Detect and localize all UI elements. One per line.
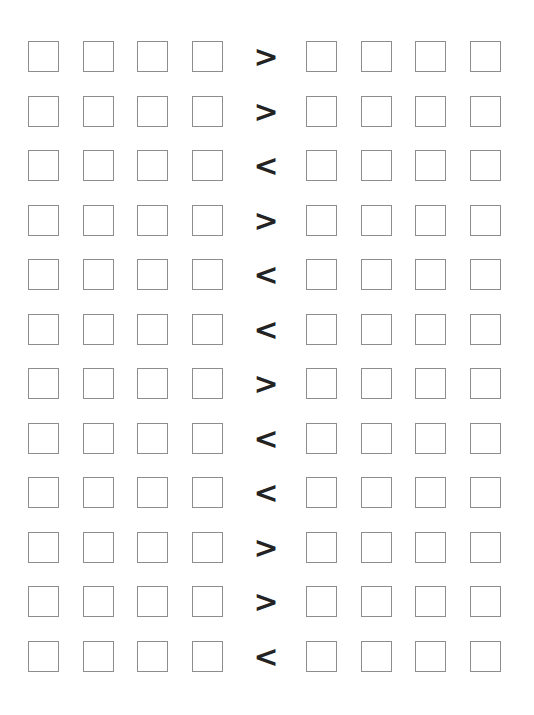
answer-box[interactable]: [415, 205, 446, 236]
answer-box[interactable]: [306, 150, 337, 181]
answer-box[interactable]: [28, 477, 59, 508]
answer-box[interactable]: [361, 477, 392, 508]
answer-box[interactable]: [137, 423, 168, 454]
answer-box[interactable]: [83, 96, 114, 127]
answer-box[interactable]: [83, 205, 114, 236]
answer-box[interactable]: [415, 368, 446, 399]
answer-box[interactable]: [192, 205, 223, 236]
answer-box[interactable]: [306, 314, 337, 345]
answer-box[interactable]: [361, 205, 392, 236]
answer-box[interactable]: [361, 259, 392, 290]
answer-box[interactable]: [137, 259, 168, 290]
answer-box[interactable]: [137, 205, 168, 236]
answer-box[interactable]: [470, 205, 501, 236]
answer-box[interactable]: [83, 314, 114, 345]
answer-box[interactable]: [415, 150, 446, 181]
answer-box[interactable]: [28, 586, 59, 617]
answer-box[interactable]: [415, 259, 446, 290]
answer-box[interactable]: [415, 586, 446, 617]
answer-box[interactable]: [306, 96, 337, 127]
answer-box[interactable]: [137, 314, 168, 345]
answer-box[interactable]: [83, 641, 114, 672]
answer-box[interactable]: [361, 641, 392, 672]
answer-box[interactable]: [415, 641, 446, 672]
right-box-group: [306, 477, 501, 510]
answer-box[interactable]: [470, 150, 501, 181]
comparison-row: <: [0, 259, 534, 314]
answer-box[interactable]: [137, 150, 168, 181]
answer-box[interactable]: [306, 205, 337, 236]
less-than-icon: <: [238, 421, 294, 457]
answer-box[interactable]: [306, 477, 337, 508]
answer-box[interactable]: [192, 259, 223, 290]
answer-box[interactable]: [83, 259, 114, 290]
answer-box[interactable]: [470, 586, 501, 617]
answer-box[interactable]: [192, 150, 223, 181]
answer-box[interactable]: [361, 314, 392, 345]
answer-box[interactable]: [470, 477, 501, 508]
answer-box[interactable]: [415, 532, 446, 563]
answer-box[interactable]: [470, 259, 501, 290]
answer-box[interactable]: [83, 41, 114, 72]
comparison-row: >: [0, 368, 534, 423]
answer-box[interactable]: [361, 368, 392, 399]
answer-box[interactable]: [137, 368, 168, 399]
answer-box[interactable]: [28, 259, 59, 290]
answer-box[interactable]: [192, 532, 223, 563]
answer-box[interactable]: [361, 150, 392, 181]
answer-box[interactable]: [192, 368, 223, 399]
answer-box[interactable]: [470, 96, 501, 127]
answer-box[interactable]: [415, 96, 446, 127]
answer-box[interactable]: [306, 423, 337, 454]
answer-box[interactable]: [192, 41, 223, 72]
answer-box[interactable]: [137, 477, 168, 508]
answer-box[interactable]: [361, 96, 392, 127]
answer-box[interactable]: [192, 586, 223, 617]
answer-box[interactable]: [306, 41, 337, 72]
answer-box[interactable]: [83, 150, 114, 181]
answer-box[interactable]: [470, 641, 501, 672]
answer-box[interactable]: [470, 368, 501, 399]
answer-box[interactable]: [415, 477, 446, 508]
answer-box[interactable]: [83, 368, 114, 399]
answer-box[interactable]: [361, 423, 392, 454]
answer-box[interactable]: [306, 368, 337, 399]
answer-box[interactable]: [470, 314, 501, 345]
answer-box[interactable]: [28, 314, 59, 345]
answer-box[interactable]: [192, 641, 223, 672]
answer-box[interactable]: [28, 96, 59, 127]
answer-box[interactable]: [83, 586, 114, 617]
answer-box[interactable]: [28, 641, 59, 672]
answer-box[interactable]: [137, 586, 168, 617]
answer-box[interactable]: [470, 532, 501, 563]
answer-box[interactable]: [137, 641, 168, 672]
answer-box[interactable]: [28, 423, 59, 454]
answer-box[interactable]: [415, 41, 446, 72]
answer-box[interactable]: [28, 532, 59, 563]
answer-box[interactable]: [28, 150, 59, 181]
answer-box[interactable]: [192, 96, 223, 127]
answer-box[interactable]: [83, 423, 114, 454]
answer-box[interactable]: [137, 532, 168, 563]
answer-box[interactable]: [192, 314, 223, 345]
answer-box[interactable]: [28, 41, 59, 72]
answer-box[interactable]: [306, 532, 337, 563]
answer-box[interactable]: [415, 314, 446, 345]
answer-box[interactable]: [137, 96, 168, 127]
answer-box[interactable]: [306, 641, 337, 672]
answer-box[interactable]: [137, 41, 168, 72]
answer-box[interactable]: [306, 259, 337, 290]
answer-box[interactable]: [28, 205, 59, 236]
answer-box[interactable]: [470, 423, 501, 454]
answer-box[interactable]: [306, 586, 337, 617]
answer-box[interactable]: [192, 477, 223, 508]
answer-box[interactable]: [192, 423, 223, 454]
answer-box[interactable]: [83, 477, 114, 508]
answer-box[interactable]: [415, 423, 446, 454]
answer-box[interactable]: [361, 532, 392, 563]
answer-box[interactable]: [361, 586, 392, 617]
answer-box[interactable]: [83, 532, 114, 563]
answer-box[interactable]: [28, 368, 59, 399]
answer-box[interactable]: [361, 41, 392, 72]
answer-box[interactable]: [470, 41, 501, 72]
